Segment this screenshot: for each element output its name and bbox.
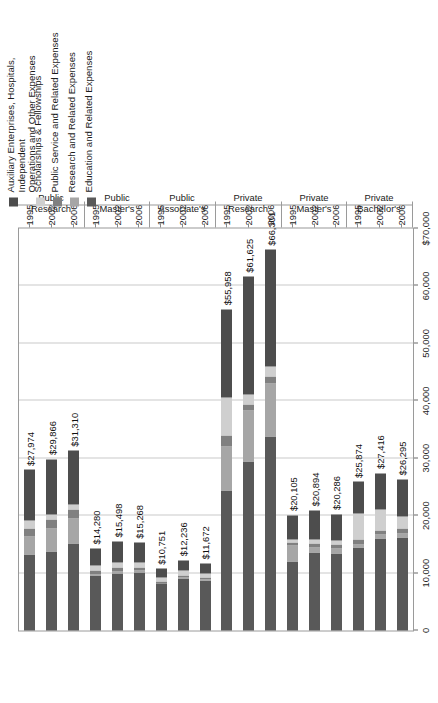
bar-segment xyxy=(68,543,79,630)
bar-row[interactable]: $66,301 xyxy=(265,249,276,630)
bar-segment xyxy=(68,518,79,543)
bar-value-label: $27,974 xyxy=(24,432,35,466)
bar-segment xyxy=(178,570,189,575)
bar-segment xyxy=(265,366,276,376)
bar-segment xyxy=(221,490,232,630)
bar-segment xyxy=(112,573,123,630)
bar-value-label: $26,295 xyxy=(397,441,408,475)
axis-tick-label: 30,000 xyxy=(420,443,431,472)
bar-segment xyxy=(46,514,57,519)
bar-value-label: $15,498 xyxy=(112,503,123,537)
bar-segment xyxy=(287,561,298,630)
bar-value-label: $20,894 xyxy=(309,472,320,506)
bar-segment xyxy=(375,534,386,538)
bar-value-label: $25,874 xyxy=(353,444,364,478)
legend-item[interactable]: Research and Related Expenses xyxy=(67,6,83,206)
bar-row[interactable]: $11,672 xyxy=(200,563,211,630)
axis-tick-label: 20,000 xyxy=(420,501,431,530)
chart-legend: Auxiliary Enterprises, Hospitals, Indepe… xyxy=(6,6,101,206)
bar-segment xyxy=(156,568,167,577)
bar-segment xyxy=(90,548,101,565)
bar-segment xyxy=(24,536,35,554)
legend-item[interactable]: Auxiliary Enterprises, Hospitals, Indepe… xyxy=(6,6,32,206)
bar-segment xyxy=(309,539,320,544)
bar-row[interactable]: $27,416 xyxy=(375,473,386,630)
bar-segment xyxy=(353,539,364,544)
bar-segment xyxy=(112,541,123,562)
bar-row[interactable]: $15,498 xyxy=(112,541,123,630)
value-axis: $70,00060,00050,00040,00030,00020,00010,… xyxy=(414,227,438,631)
bar-segment xyxy=(68,509,79,518)
bar-value-label: $27,416 xyxy=(375,435,386,469)
bar-row[interactable]: $12,236 xyxy=(178,560,189,630)
plot-area: $27,974$29,866$31,310$14,280$15,498$15,2… xyxy=(18,227,414,631)
bar-segment xyxy=(353,481,364,512)
bar-segment xyxy=(156,577,167,581)
legend-swatch xyxy=(53,197,62,206)
bar-segment xyxy=(375,473,386,509)
bar-segment xyxy=(397,479,408,516)
legend-item[interactable]: Public Service and Related Expenses xyxy=(50,6,66,206)
bar-segment xyxy=(397,533,408,537)
bar-segment xyxy=(90,575,101,630)
bar-value-label: $61,625 xyxy=(243,238,254,272)
axis-tick-mark xyxy=(414,572,418,573)
legend-swatch xyxy=(9,197,18,206)
group-label: Private Bachelor's xyxy=(339,193,419,214)
bar-segment xyxy=(309,552,320,630)
bar-segment xyxy=(243,461,254,630)
bar-segment xyxy=(265,376,276,383)
bar-segment xyxy=(331,548,342,553)
bar-value-label: $55,958 xyxy=(221,271,232,305)
chart-figure-rotated: $27,974$29,866$31,310$14,280$15,498$15,2… xyxy=(0,0,438,703)
bar-row[interactable]: $31,310 xyxy=(68,450,79,630)
bar-segment xyxy=(287,515,298,540)
bar-value-label: $15,268 xyxy=(134,504,145,538)
bar-row[interactable]: $25,874 xyxy=(353,481,364,630)
bar-segment xyxy=(112,562,123,567)
bar-row[interactable]: $55,958 xyxy=(221,309,232,630)
legend-label: Education and Related Expenses xyxy=(84,50,95,192)
bar-segment xyxy=(90,570,101,573)
bar-segment xyxy=(221,446,232,490)
bar-segment xyxy=(309,543,320,546)
bar-segment xyxy=(68,504,79,509)
bar-segment xyxy=(397,537,408,630)
bar-segment xyxy=(375,530,386,535)
bar-segment xyxy=(331,540,342,545)
bar-segment xyxy=(331,514,342,540)
bar-row[interactable]: $10,751 xyxy=(156,568,167,630)
bar-row[interactable]: $27,974 xyxy=(24,469,35,630)
bar-row[interactable]: $20,105 xyxy=(287,515,298,630)
bar-segment xyxy=(200,573,211,578)
legend-label: Research and Related Expenses xyxy=(67,52,78,192)
bar-segment xyxy=(353,547,364,630)
bar-value-label: $31,310 xyxy=(68,412,79,446)
bar-segment xyxy=(309,510,320,539)
bar-segment xyxy=(397,528,408,533)
bar-segment xyxy=(90,565,101,570)
bar-segment xyxy=(46,519,57,528)
bar-segment xyxy=(221,397,232,435)
bar-row[interactable]: $29,866 xyxy=(46,459,57,630)
bar-row[interactable]: $15,268 xyxy=(134,542,145,630)
axis-tick-mark xyxy=(414,342,418,343)
bar-row[interactable]: $26,295 xyxy=(397,479,408,630)
bar-row[interactable]: $20,286 xyxy=(331,514,342,630)
axis-tick-mark xyxy=(414,457,418,458)
legend-swatch xyxy=(70,197,79,206)
axis-tick-mark xyxy=(414,629,418,630)
legend-item[interactable]: Education and Related Expenses xyxy=(84,6,100,206)
axis-tick-label: $70,000 xyxy=(420,211,431,245)
bar-value-label: $20,286 xyxy=(331,476,342,510)
bar-series-container: $27,974$29,866$31,310$14,280$15,498$15,2… xyxy=(19,228,413,630)
bar-row[interactable]: $61,625 xyxy=(243,276,254,630)
bar-row[interactable]: $14,280 xyxy=(90,548,101,630)
bar-segment xyxy=(200,580,211,630)
bar-segment xyxy=(287,545,298,561)
bar-value-label: $11,672 xyxy=(200,526,211,559)
bar-segment xyxy=(68,450,79,504)
bar-segment xyxy=(178,578,189,630)
bar-row[interactable]: $20,894 xyxy=(309,510,320,630)
axis-tick-label: 0 xyxy=(420,627,431,632)
